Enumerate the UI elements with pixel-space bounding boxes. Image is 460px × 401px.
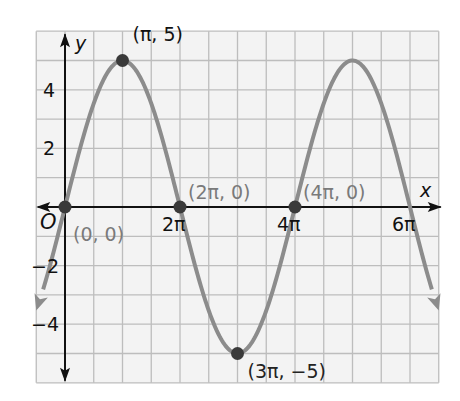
x-tick-label: 2π	[162, 213, 186, 235]
y-tick-label: −4	[31, 313, 59, 335]
x-axis-label: x	[419, 179, 432, 201]
y-tick-label: 4	[43, 79, 55, 101]
y-tick-label: 2	[43, 137, 55, 159]
key-point	[116, 54, 129, 67]
key-point-label: (0, 0)	[73, 223, 124, 245]
key-point	[289, 201, 302, 214]
origin-label: O	[40, 210, 57, 234]
y-axis-label: y	[74, 32, 87, 54]
key-point	[231, 347, 244, 360]
key-point-label: (3π, −5)	[248, 360, 326, 382]
x-tick-label: 4π	[277, 213, 301, 235]
key-point	[59, 201, 72, 214]
key-point	[174, 201, 187, 214]
key-point-label: (π, 5)	[133, 23, 183, 45]
y-tick-label: −2	[31, 255, 59, 277]
key-point-label: (4π, 0)	[303, 181, 366, 203]
sine-graph: (0, 0)(π, 5)(2π, 0)(3π, −5)(4π, 0) x y O…	[0, 0, 460, 401]
key-point-label: (2π, 0)	[188, 181, 251, 203]
x-tick-label: 6π	[392, 213, 416, 235]
